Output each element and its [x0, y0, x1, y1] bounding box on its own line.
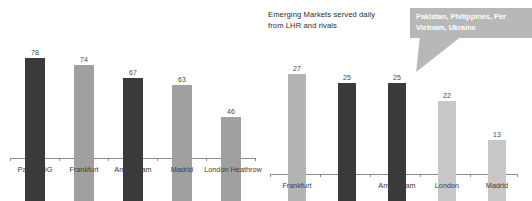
- left-bar-chart: 78 74 67 63 46 Paris CD: [0, 0, 262, 201]
- right-category-label: Frankfurt: [272, 181, 322, 190]
- bar-paris-cdg[interactable]: 78: [25, 43, 45, 201]
- bar-amsterdam[interactable]: 67: [123, 43, 143, 201]
- bar-rect: [74, 65, 94, 201]
- right-category-label: Madrid: [472, 181, 522, 190]
- bar-value-label: 27: [288, 65, 306, 73]
- left-category-label: Paris CDG: [10, 165, 60, 174]
- bar-amsterdam[interactable]: 25: [388, 27, 406, 201]
- bar-value-label: 67: [123, 69, 143, 77]
- bar-value-label: 13: [488, 131, 506, 139]
- bar-value-label: 46: [221, 108, 241, 116]
- bar-madrid[interactable]: 13: [488, 27, 506, 201]
- bar-london-heathrow[interactable]: 46: [221, 43, 241, 201]
- right-axis-tick: [270, 174, 271, 177]
- right-category-label: London: [422, 181, 472, 190]
- right-category-label: Paris: [322, 181, 372, 190]
- left-axis-tick: [157, 158, 158, 161]
- bar-rect: [221, 117, 241, 201]
- left-axis-tick: [108, 158, 109, 161]
- left-category-label: London Heathrow: [204, 165, 262, 174]
- london-callout: Pakistan, Philippines, Per Vietnam, Ukra…: [410, 8, 532, 38]
- right-bar-chart: Emerging Markets served daily from LHR a…: [262, 0, 524, 201]
- left-category-label: Amsterdam: [108, 165, 158, 174]
- bar-frankfurt[interactable]: 27: [288, 27, 306, 201]
- bar-value-label: 78: [25, 49, 45, 57]
- bar-paris[interactable]: 25: [338, 27, 356, 201]
- bar-value-label: 22: [438, 92, 456, 100]
- bar-value-label: 25: [338, 74, 356, 82]
- bar-rect: [488, 140, 506, 201]
- bar-frankfurt[interactable]: 74: [74, 43, 94, 201]
- right-category-label: Amsterdam: [372, 181, 422, 190]
- right-axis-tick: [420, 174, 421, 177]
- right-axis-tick: [517, 174, 518, 177]
- bar-london[interactable]: 22: [438, 27, 456, 201]
- left-category-label: Madrid: [157, 165, 207, 174]
- bar-rect: [25, 58, 45, 201]
- bar-value-label: 63: [172, 76, 192, 84]
- right-axis-tick: [470, 174, 471, 177]
- bar-rect: [123, 78, 143, 201]
- right-axis-tick: [370, 174, 371, 177]
- left-category-label: Frankfurt: [59, 165, 109, 174]
- bar-rect: [172, 85, 192, 201]
- left-axis-tick: [59, 158, 60, 161]
- right-chart-title: Emerging Markets served daily from LHR a…: [268, 10, 375, 31]
- bar-value-label: 25: [388, 74, 406, 82]
- bar-madrid[interactable]: 63: [172, 43, 192, 201]
- left-axis-tick: [206, 158, 207, 161]
- right-axis-tick: [320, 174, 321, 177]
- left-axis-tick: [255, 158, 256, 161]
- left-plot-area: 78 74 67 63 46 Paris CD: [0, 0, 262, 201]
- left-axis-tick: [10, 158, 11, 161]
- bar-value-label: 74: [74, 56, 94, 64]
- right-plot-area: Emerging Markets served daily from LHR a…: [262, 0, 524, 201]
